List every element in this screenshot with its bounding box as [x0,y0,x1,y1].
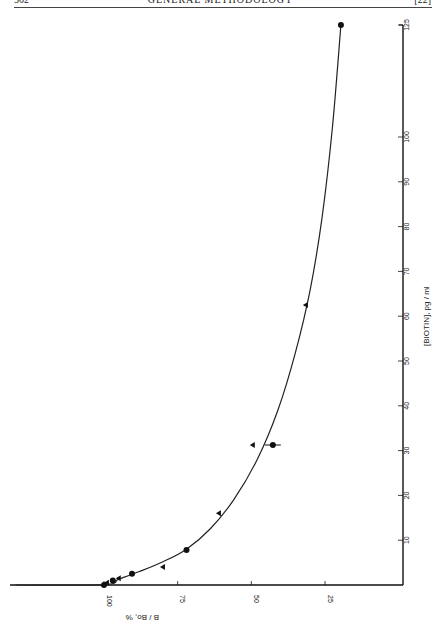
y-tick-label: 80 [403,223,410,231]
fit-curve [16,25,341,585]
x-tick-label: 100 [106,595,113,607]
fit-curve-group [16,25,341,585]
data-point-circle [338,22,344,28]
data-point-triangle [303,302,308,308]
y-tick-label: 20 [403,491,410,499]
y-tick-label: 60 [403,312,410,320]
x-axis-label: B / Bo, % [126,613,159,622]
data-point-circle [129,571,135,577]
data-point-triangle [216,510,221,516]
data-points [101,22,344,588]
y-tick-label: 125 [403,19,410,31]
data-point-triangle [160,564,165,570]
y-tick-label: 70 [403,267,410,275]
x-tick-label: 25 [327,595,334,603]
axes: 100755025102030405060708090100125 [10,19,410,607]
data-point-circle [270,442,276,448]
x-tick-label: 50 [253,595,260,603]
data-point-circle [184,547,190,553]
data-point-triangle [250,442,255,448]
y-tick-label: 50 [403,357,410,365]
y-axis-label: [BIOTIN], pg / ml [422,286,431,346]
y-tick-label: 30 [403,447,410,455]
y-tick-label: 90 [403,178,410,186]
y-tick-label: 10 [403,536,410,544]
y-tick-label: 100 [403,131,410,143]
data-point-circle [110,578,116,584]
x-tick-label: 75 [179,595,186,603]
chart: 100755025102030405060708090100125 B / Bo… [0,0,441,625]
y-tick-label: 40 [403,402,410,410]
